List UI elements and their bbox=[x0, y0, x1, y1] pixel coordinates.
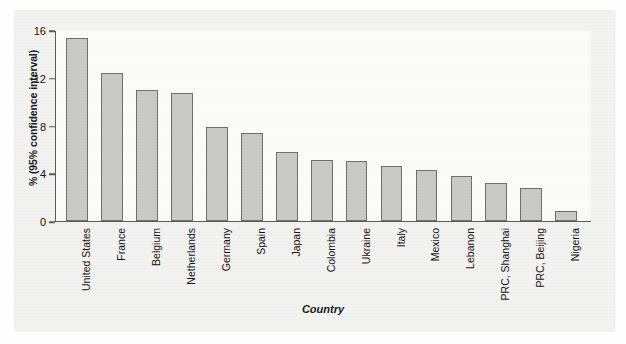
bar bbox=[520, 188, 542, 221]
y-tick-label: 12 bbox=[20, 73, 46, 85]
y-tick-label: 16 bbox=[20, 25, 46, 37]
x-tick-label: Netherlands bbox=[185, 228, 197, 285]
bar bbox=[276, 152, 298, 221]
plot-area bbox=[55, 31, 591, 222]
bar bbox=[346, 161, 368, 221]
bar bbox=[136, 90, 158, 221]
x-tick-label: PRC, Beijing bbox=[534, 228, 546, 288]
bar bbox=[416, 170, 438, 221]
y-axis-title: % (95% confidence interval) bbox=[27, 23, 39, 213]
bar bbox=[485, 183, 507, 221]
x-tick-label: Mexico bbox=[429, 228, 441, 261]
x-tick-label: Nigeria bbox=[569, 228, 581, 261]
x-tick-label: France bbox=[115, 228, 127, 261]
bar bbox=[241, 133, 263, 221]
y-tick-label: 4 bbox=[20, 168, 46, 180]
x-tick-label: Spain bbox=[255, 228, 267, 255]
x-tick-label: Belgium bbox=[150, 228, 162, 266]
x-tick-label: Colombia bbox=[325, 228, 337, 272]
bar-chart: % (95% confidence interval) 0481216 Unit… bbox=[0, 0, 626, 344]
x-tick-label: Italy bbox=[395, 228, 407, 247]
x-tick-label: Japan bbox=[290, 228, 302, 257]
x-tick-label: Germany bbox=[220, 228, 232, 271]
x-tick-label: United States bbox=[80, 228, 92, 291]
bar bbox=[66, 38, 88, 221]
bar bbox=[451, 176, 473, 221]
x-tick-label: Lebanon bbox=[464, 228, 476, 269]
bar bbox=[311, 160, 333, 221]
y-tick-label: 0 bbox=[20, 216, 46, 228]
x-tick-label: Ukraine bbox=[360, 228, 372, 264]
x-tick-label: PRC, Shanghai bbox=[499, 228, 511, 300]
bar bbox=[555, 211, 577, 221]
x-axis-title: Country bbox=[55, 303, 591, 315]
bar bbox=[206, 127, 228, 221]
bar bbox=[171, 93, 193, 221]
bar bbox=[381, 166, 403, 221]
bar bbox=[101, 73, 123, 221]
y-tick-label: 8 bbox=[20, 121, 46, 133]
